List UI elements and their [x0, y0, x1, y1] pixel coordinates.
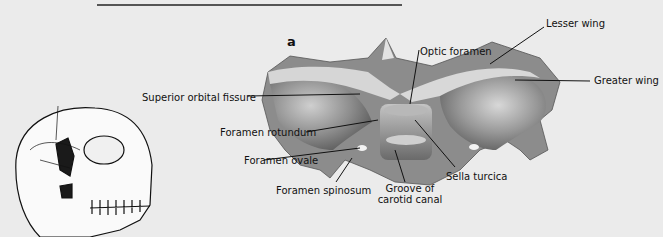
- label-foramen-rotundum: Foramen rotundum: [220, 127, 316, 138]
- label-groove-line1: Groove of: [372, 183, 448, 194]
- label-lesser-wing: Lesser wing: [546, 18, 605, 29]
- label-optic-foramen: Optic foramen: [420, 46, 492, 57]
- skull-locator-illustration: [16, 106, 152, 237]
- label-sella-turcica: Sella turcica: [446, 171, 507, 182]
- tuberculum: [384, 104, 428, 116]
- label-foramen-ovale: Foramen ovale: [244, 155, 318, 166]
- panel-letter: a: [287, 34, 296, 49]
- label-superior-orbital-fissure: Superior orbital fissure: [142, 92, 256, 103]
- label-groove-of-carotid-canal: Groove of carotid canal: [372, 183, 448, 205]
- skull-nasal-cavity: [60, 184, 72, 198]
- label-greater-wing: Greater wing: [594, 75, 659, 86]
- skull-orbit: [84, 136, 124, 164]
- foramen-ovale-right-hole: [469, 144, 479, 150]
- dorsum: [386, 135, 426, 145]
- label-groove-line2: carotid canal: [372, 194, 448, 205]
- figure-canvas: [0, 0, 663, 237]
- skull-outline: [16, 108, 152, 237]
- label-foramen-spinosum: Foramen spinosum: [276, 185, 371, 196]
